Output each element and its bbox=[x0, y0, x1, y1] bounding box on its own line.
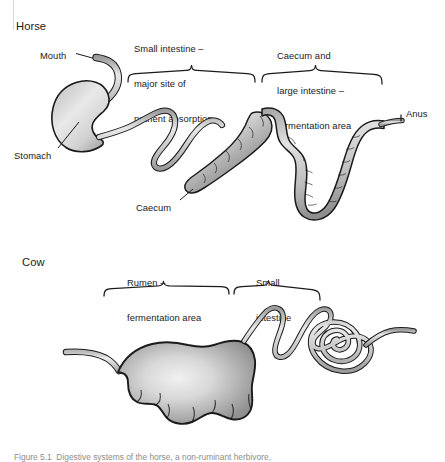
horse-large-intestine bbox=[262, 108, 384, 220]
horse-small-intestine bbox=[99, 111, 222, 169]
horse-bracket-small-intestine bbox=[128, 66, 255, 82]
horse-small-intestine-outline bbox=[99, 111, 222, 169]
cow-bracket-small-intestine bbox=[234, 281, 320, 300]
horse-caecum bbox=[185, 112, 272, 193]
horse-stomach bbox=[52, 81, 109, 152]
cow-rumen bbox=[118, 341, 255, 424]
horse-bracket-caecum-large-intestine bbox=[262, 66, 382, 84]
anatomy-diagram-svg bbox=[0, 0, 445, 462]
figure-root: Horse Mouth Stomach Caecum Anus Small in… bbox=[0, 0, 445, 462]
cow-bracket-rumen bbox=[104, 282, 229, 297]
